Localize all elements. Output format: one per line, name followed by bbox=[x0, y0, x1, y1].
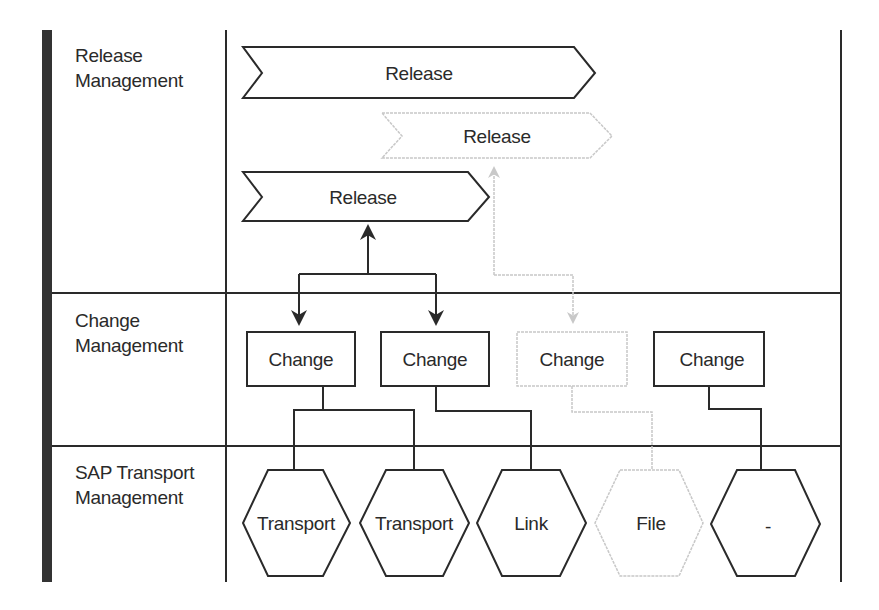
lane-label-release-management: Release Management bbox=[75, 43, 183, 93]
faded-arrow-down-icon bbox=[494, 275, 573, 318]
transport-1[interactable]: Transport bbox=[243, 470, 350, 576]
change-4[interactable]: Change bbox=[654, 332, 764, 386]
transport-file[interactable]: File bbox=[595, 470, 703, 576]
change-2-label: Change bbox=[403, 349, 468, 370]
lane-sidebar-bar bbox=[42, 30, 52, 582]
release-3-label: Release bbox=[329, 187, 397, 208]
change-1[interactable]: Change bbox=[247, 332, 355, 386]
transport-empty-label: - bbox=[765, 516, 771, 537]
faded-release-change-connector bbox=[494, 172, 573, 318]
transport-link[interactable]: Link bbox=[477, 470, 586, 576]
transport-link-label: Link bbox=[514, 513, 548, 534]
release-2[interactable]: Release bbox=[382, 113, 612, 158]
transport-2[interactable]: Transport bbox=[360, 470, 469, 576]
lane-label-sap-transport-management: SAP Transport Management bbox=[75, 460, 194, 510]
release-3[interactable]: Release bbox=[243, 172, 489, 221]
release-1[interactable]: Release bbox=[243, 47, 595, 98]
release-1-label: Release bbox=[385, 63, 453, 84]
change-3[interactable]: Change bbox=[517, 332, 627, 386]
change-transport-connectors bbox=[294, 386, 761, 470]
release-2-label: Release bbox=[463, 126, 531, 147]
change-1-label: Change bbox=[269, 349, 334, 370]
transport-1-label: Transport bbox=[257, 513, 336, 534]
lane-label-change-management: Change Management bbox=[75, 308, 183, 358]
change-4-label: Change bbox=[680, 349, 745, 370]
transport-file-label: File bbox=[636, 513, 665, 534]
faded-change-file-connector bbox=[572, 386, 652, 470]
swimlane-diagram: Release Release Release Change bbox=[0, 0, 879, 610]
transport-2-label: Transport bbox=[375, 513, 454, 534]
change-3-label: Change bbox=[540, 349, 605, 370]
change-2[interactable]: Change bbox=[381, 332, 489, 386]
transport-empty[interactable]: - bbox=[711, 470, 820, 576]
release-change-connector bbox=[299, 232, 436, 318]
